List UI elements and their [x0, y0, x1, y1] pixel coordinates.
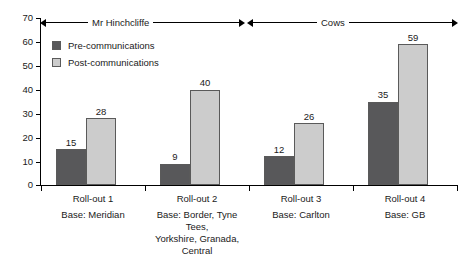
category-rollout-3: Roll-out 3 Base: Carlton: [249, 192, 353, 221]
x-axis-separator-end: [457, 186, 458, 191]
x-axis-separator: [249, 186, 250, 191]
x-axis-separator-start: [41, 186, 42, 191]
category-base-line2: Yorkshire, Granada, Central: [145, 233, 249, 257]
bar-value-post-3: 26: [294, 111, 324, 122]
category-base-line1: Base: Border, Tyne Tees,: [145, 209, 249, 233]
bar-value-post-1: 28: [86, 106, 116, 117]
x-axis-category-labels: Roll-out 1 Base: Meridian Roll-out 2 Bas…: [0, 192, 462, 242]
category-rollout-4: Roll-out 4 Base: GB: [353, 192, 457, 221]
bar-value-pre-2: 9: [160, 151, 190, 162]
category-title: Roll-out 4: [353, 192, 457, 205]
category-title: Roll-out 3: [249, 192, 353, 205]
bar-group-rollout-3: 12 26: [264, 18, 324, 185]
bar-value-post-2: 40: [190, 77, 220, 88]
y-axis-label: 70: [0, 13, 33, 22]
legend-label-post: Post-communications: [68, 57, 159, 68]
bar-post-3[interactable]: [294, 123, 324, 185]
bar-post-2[interactable]: [190, 90, 220, 185]
bar-group-rollout-2: 9 40: [160, 18, 220, 185]
legend-item-pre: Pre-communications: [52, 38, 159, 53]
legend: Pre-communications Post-communications: [52, 38, 159, 72]
y-axis-label: 50: [0, 61, 33, 70]
y-axis-label: 60: [0, 37, 33, 46]
y-axis-label: 10: [0, 157, 33, 166]
legend-swatch-pre-icon: [52, 41, 61, 50]
bar-group-rollout-4: 35 59: [368, 18, 428, 185]
legend-label-pre: Pre-communications: [68, 40, 155, 51]
bar-value-pre-1: 15: [56, 137, 86, 148]
category-base-line1: Base: Meridian: [41, 209, 145, 221]
category-title: Roll-out 1: [41, 192, 145, 205]
x-axis-separator: [145, 186, 146, 191]
y-axis-label: 30: [0, 109, 33, 118]
bar-pre-3[interactable]: [264, 156, 294, 185]
x-axis-separator: [353, 186, 354, 191]
legend-item-post: Post-communications: [52, 55, 159, 70]
category-base-line1: Base: GB: [353, 209, 457, 221]
y-axis-label: 0: [0, 180, 33, 189]
bar-post-1[interactable]: [86, 118, 116, 185]
category-rollout-2: Roll-out 2 Base: Border, Tyne Tees, York…: [145, 192, 249, 257]
category-base-line1: Base: Carlton: [249, 209, 353, 221]
bar-value-pre-4: 35: [368, 89, 398, 100]
y-axis-label: 20: [0, 133, 33, 142]
category-title: Roll-out 2: [145, 192, 249, 205]
bar-pre-4[interactable]: [368, 102, 398, 186]
bar-pre-2[interactable]: [160, 164, 190, 186]
bar-post-4[interactable]: [398, 44, 428, 185]
y-axis-label: 40: [0, 85, 33, 94]
bar-value-post-4: 59: [398, 32, 428, 43]
bar-value-pre-3: 12: [264, 144, 294, 155]
bar-pre-1[interactable]: [56, 149, 86, 185]
category-rollout-1: Roll-out 1 Base: Meridian: [41, 192, 145, 221]
legend-swatch-post-icon: [52, 58, 61, 67]
